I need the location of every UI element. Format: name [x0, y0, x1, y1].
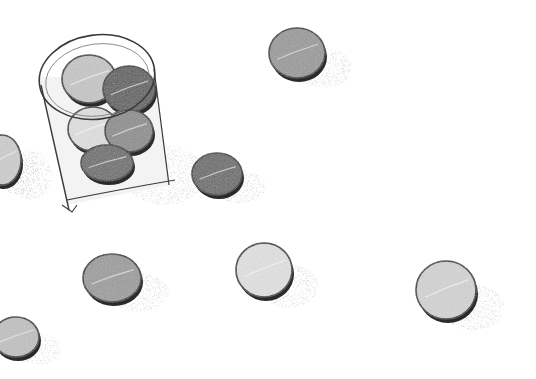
token-dark-near-glass [192, 153, 244, 199]
sketch-illustration [0, 0, 536, 379]
token-bottom-left-middle [83, 254, 143, 306]
token-bottom-left-corner [0, 317, 41, 361]
token-bottom-center [236, 243, 294, 301]
token-top-right [269, 28, 327, 82]
token-bottom-right [416, 261, 478, 323]
glass [34, 27, 175, 212]
